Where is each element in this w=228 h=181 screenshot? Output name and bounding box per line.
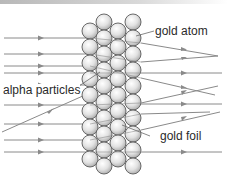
label-gold-atom: gold atom xyxy=(155,25,208,38)
label-alpha-particles: alpha particles xyxy=(3,84,80,97)
label-gold-foil: gold foil xyxy=(160,130,201,143)
